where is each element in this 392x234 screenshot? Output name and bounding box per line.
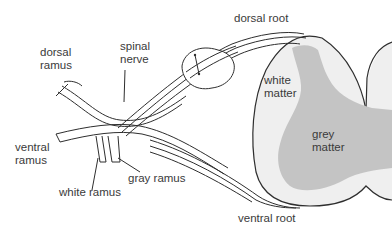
- label-dorsal-root: dorsal root: [234, 12, 288, 25]
- label-white-ramus: white ramus: [59, 186, 121, 199]
- label-ventral-ramus: ventral ramus: [15, 141, 50, 167]
- dorsal-root-ganglion: [182, 46, 238, 89]
- spinal-cord: [253, 36, 392, 206]
- gray-ramus-leader: [118, 158, 140, 172]
- label-gray-ramus: gray ramus: [128, 172, 186, 185]
- label-ventral-root: ventral root: [238, 212, 296, 225]
- label-grey-matter: grey matter: [312, 128, 345, 154]
- label-dorsal-ramus: dorsal ramus: [40, 46, 72, 72]
- label-white-matter: white matter: [264, 74, 297, 100]
- label-spinal-nerve: spinal nerve: [120, 40, 150, 66]
- spinal-nerve-leader: [124, 70, 125, 102]
